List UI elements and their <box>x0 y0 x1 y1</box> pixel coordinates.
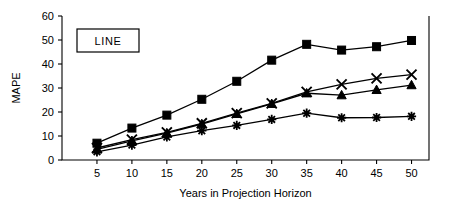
square-marker <box>303 40 311 48</box>
square-marker <box>338 46 346 54</box>
series-asterisk-series <box>92 109 416 157</box>
asterisk-marker <box>337 113 346 122</box>
y-tick-label: 10 <box>42 130 54 142</box>
asterisk-marker <box>162 132 171 141</box>
x-tick-label: 30 <box>266 167 278 179</box>
axis-labels: 01020304050605101520253035404550Years in… <box>10 10 418 199</box>
x-tick-label: 5 <box>94 167 100 179</box>
x-tick-label: 35 <box>301 167 313 179</box>
asterisk-marker <box>197 126 206 135</box>
series-line-asterisk <box>97 113 412 152</box>
x-axis-title: Years in Projection Horizon <box>179 187 311 199</box>
y-tick-label: 40 <box>42 58 54 70</box>
x-tick-label: 45 <box>370 167 382 179</box>
y-tick-label: 20 <box>42 106 54 118</box>
legend-box: LINE <box>77 29 139 52</box>
square-marker <box>373 43 381 51</box>
y-tick-label: 0 <box>48 154 54 166</box>
asterisk-marker <box>372 113 381 122</box>
triangle-marker <box>407 80 416 88</box>
x-tick-label: 50 <box>405 167 417 179</box>
x-tick-label: 20 <box>196 167 208 179</box>
y-tick-label: 30 <box>42 82 54 94</box>
y-tick-label: 50 <box>42 34 54 46</box>
asterisk-marker <box>92 147 101 156</box>
y-axis-title: MAPE <box>10 72 22 103</box>
series-line-cross <box>97 75 412 148</box>
x-tick-label: 10 <box>126 167 138 179</box>
series-triangle-series <box>92 80 416 153</box>
data-series-layer <box>92 36 417 156</box>
x-tick-label: 25 <box>231 167 243 179</box>
legend-label: LINE <box>95 35 122 47</box>
y-tick-label: 60 <box>42 10 54 22</box>
square-marker <box>198 95 206 103</box>
square-marker <box>233 77 241 85</box>
square-marker <box>128 124 136 132</box>
square-marker <box>408 36 416 44</box>
x-tick-label: 15 <box>161 167 173 179</box>
asterisk-marker <box>302 109 311 118</box>
asterisk-marker <box>267 115 276 124</box>
line-chart: LINE 01020304050605101520253035404550Yea… <box>0 0 449 209</box>
square-marker <box>163 111 171 119</box>
square-marker <box>268 56 276 64</box>
asterisk-marker <box>127 141 136 150</box>
asterisk-marker <box>407 112 416 121</box>
series-cross-series <box>92 70 417 153</box>
x-tick-label: 40 <box>335 167 347 179</box>
chart-figure: LINE 01020304050605101520253035404550Yea… <box>0 0 449 209</box>
asterisk-marker <box>232 121 241 130</box>
